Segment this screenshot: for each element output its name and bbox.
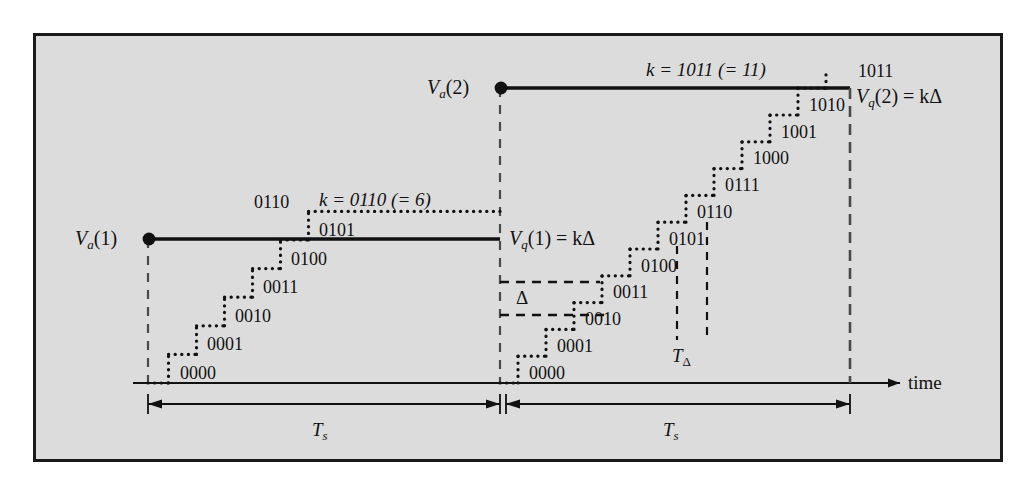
label-vq1: Vq(1) = kΔ <box>509 228 595 251</box>
label-va1: Va(1) <box>75 228 117 251</box>
label-va2: Va(2) <box>427 77 469 100</box>
step-label-s1-0000: 0000 <box>180 364 216 382</box>
figure-root: Va(1) Va(2) Vq(1) = kΔ Vq(2) = kΔ k = 01… <box>0 0 1035 489</box>
label-ts-1: Ts <box>312 420 328 442</box>
label-delta: Δ <box>516 288 528 307</box>
step-label-s1-0010: 0010 <box>235 307 271 325</box>
step-label-s2-1010: 1010 <box>809 96 845 114</box>
label-ts-2: Ts <box>663 420 679 442</box>
dimension-ts-2 <box>506 394 850 414</box>
step-label-s2-0111: 0111 <box>725 176 760 194</box>
label-time-axis: time <box>908 373 942 392</box>
step-label-s1-0001: 0001 <box>207 335 243 353</box>
step-label-s1-0101: 0101 <box>319 221 355 239</box>
step-label-s2-0100: 0100 <box>641 257 677 275</box>
step-label-s1-0011: 0011 <box>263 278 298 296</box>
step-label-s2-0110: 0110 <box>697 203 732 221</box>
step-label-s2-0011: 0011 <box>613 283 648 301</box>
step-label-s2-1011: 1011 <box>858 62 893 80</box>
dimension-ts-1 <box>148 394 500 414</box>
label-vq2: Vq(2) = kΔ <box>856 86 942 109</box>
step-label-s2-0001: 0001 <box>557 337 593 355</box>
step-label-s2-1000: 1000 <box>753 149 789 167</box>
step-label-s2-1001: 1001 <box>781 123 817 141</box>
sample-dot-2 <box>495 82 508 95</box>
step-label-s1-0110: 0110 <box>254 193 289 211</box>
label-k-second: k = 1011 (= 11) <box>646 60 766 79</box>
label-k-first: k = 0110 (= 6) <box>319 190 431 209</box>
step-label-s1-0100: 0100 <box>291 250 327 268</box>
label-t-delta: TΔ <box>672 346 691 368</box>
sample-dot-1 <box>143 233 156 246</box>
step-label-s2-0010: 0010 <box>585 310 621 328</box>
step-label-s2-0101: 0101 <box>669 230 705 248</box>
step-label-s2-0000: 0000 <box>529 364 565 382</box>
